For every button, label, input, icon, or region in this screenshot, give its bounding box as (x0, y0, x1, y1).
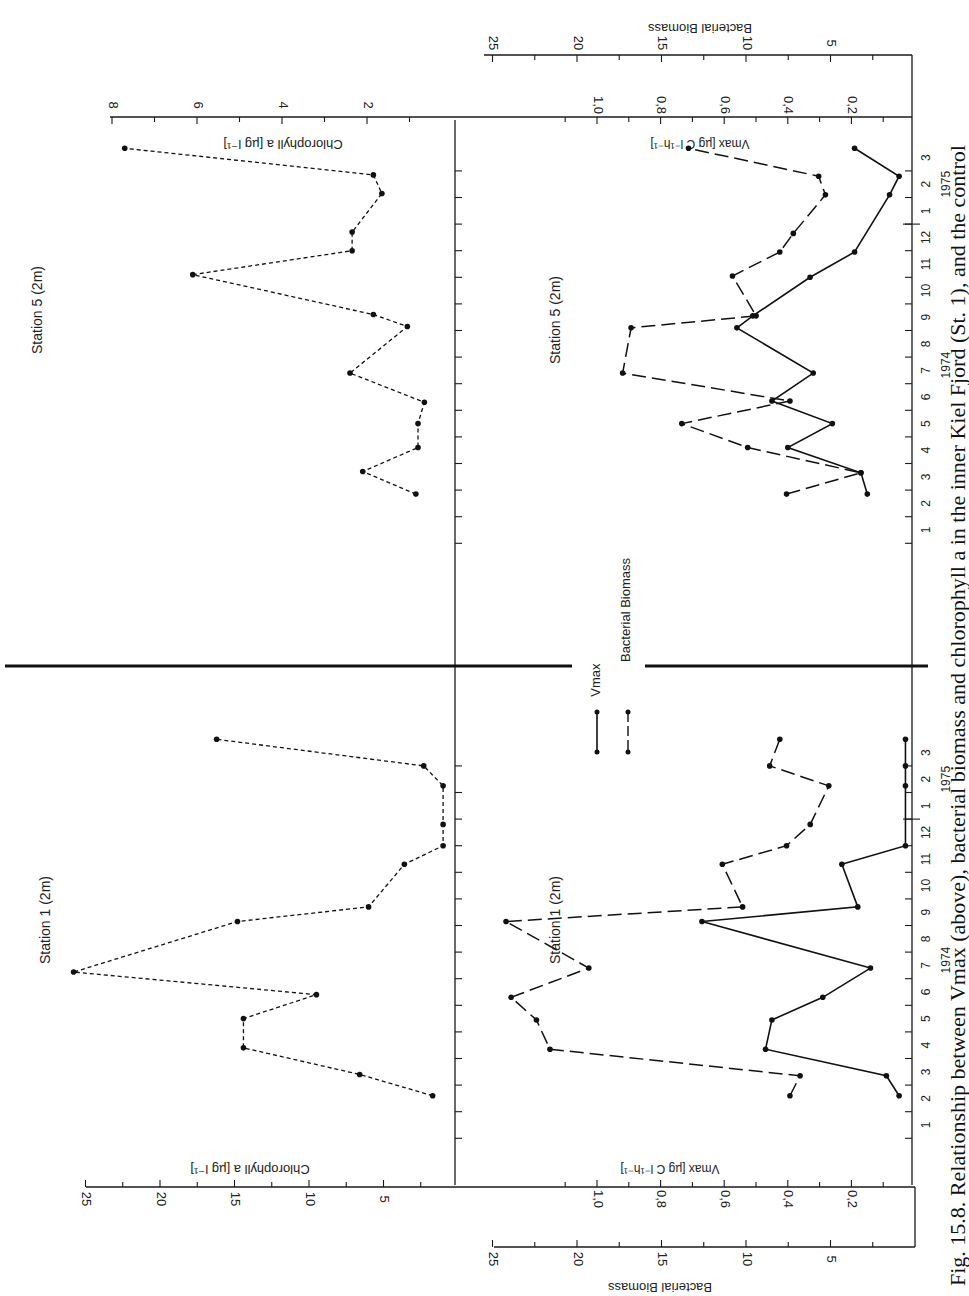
data-point (784, 491, 790, 497)
month-tick-label: 12 (919, 230, 933, 244)
data-point (534, 1017, 540, 1023)
month-tick-label: 10 (919, 284, 933, 298)
month-tick-label: 4 (919, 1042, 933, 1049)
value-tick-label: 10 (740, 36, 755, 50)
st5-biomass-line (623, 148, 861, 494)
data-point (440, 783, 446, 789)
value-tick-label: 25 (486, 1252, 501, 1266)
data-point (839, 862, 845, 868)
data-point (852, 145, 858, 151)
data-point (699, 919, 705, 925)
value-tick-label: 0,6 (718, 1190, 733, 1208)
panel-titles: Station 5 (2m)Station 5 (2m)Station 1 (2… (29, 266, 633, 964)
st5-chlorophyll-line (125, 148, 425, 494)
data-point (884, 1073, 890, 1079)
data-point (371, 312, 377, 318)
month-tick-label: 5 (919, 1015, 933, 1022)
data-point (777, 737, 783, 743)
axis-labels: 1234567891011121231974197512345678910111… (79, 21, 953, 1295)
data-point (745, 445, 751, 451)
value-tick-label: 10 (303, 1192, 318, 1206)
data-point (214, 737, 220, 743)
data-point (349, 248, 355, 254)
data-point (896, 173, 902, 179)
month-tick-label: 2 (919, 1095, 933, 1102)
st1-vmax-line (702, 739, 906, 1095)
value-tick-label: 20 (154, 1192, 169, 1206)
data-point (807, 822, 813, 828)
month-tick-label: 8 (919, 340, 933, 347)
value-tick-label: 5 (824, 1255, 839, 1262)
value-tick-label: 15 (228, 1192, 243, 1206)
figure-canvas: 1234567891011121231974197512345678910111… (0, 0, 969, 1296)
data-point (763, 1046, 769, 1052)
data-point (858, 470, 864, 476)
value-tick-label: 5 (824, 39, 839, 46)
figure-caption: Fig. 15.8. Relationship between Vmax (ab… (945, 145, 969, 1286)
data-point (769, 1017, 775, 1023)
data-point (896, 1093, 902, 1099)
value-tick-label: 0,4 (781, 96, 796, 114)
data-point (241, 1016, 247, 1022)
data-point (71, 969, 77, 975)
data-point (241, 1045, 247, 1051)
axes-frame (5, 55, 928, 1247)
data-point (379, 191, 385, 197)
data-point (405, 324, 411, 330)
month-tick-label: 2 (919, 500, 933, 507)
data-point (586, 965, 592, 971)
month-tick-label: 11 (919, 257, 933, 270)
month-tick-label: 1 (919, 1121, 933, 1128)
data-point (422, 400, 428, 406)
data-point (190, 272, 196, 278)
month-tick-label: 3 (919, 154, 933, 161)
data-point (440, 822, 446, 828)
month-tick-label: 11 (919, 852, 933, 865)
data-point (753, 313, 759, 319)
data-point (360, 469, 366, 475)
month-tick-label: 2 (919, 181, 933, 188)
data-point (503, 919, 509, 925)
data-point (402, 862, 408, 868)
value-tick-label: 25 (79, 1192, 94, 1206)
value-tick-label: 5 (377, 1195, 392, 1202)
month-tick-label: 12 (919, 825, 933, 839)
value-tick-label: 1,0 (591, 96, 606, 114)
legend-biomass-label: Bacterial Biomass (618, 557, 633, 662)
data-point (730, 273, 736, 279)
panel-title-st5-chl: Station 5 (2m) (29, 266, 45, 354)
data-point (235, 919, 241, 925)
data-point (797, 1073, 803, 1079)
data-point (421, 763, 427, 769)
data-point (547, 1046, 553, 1052)
month-tick-label: 3 (919, 473, 933, 480)
biomass-axis-title-st5: Bacterial Biomass (647, 21, 752, 36)
data-point (903, 843, 909, 849)
value-tick-label: 15 (655, 36, 670, 50)
month-tick-label: 4 (919, 447, 933, 454)
value-tick-label: 0,2 (845, 96, 860, 114)
data-point (903, 783, 909, 789)
data-point (122, 145, 128, 151)
data-point (415, 445, 421, 451)
month-tick-label: 1 (919, 802, 933, 809)
data-point (415, 421, 421, 427)
value-tick-label: 4 (276, 101, 291, 108)
data-point (855, 904, 861, 910)
value-tick-label: 10 (740, 1252, 755, 1266)
month-tick-label: 6 (919, 393, 933, 400)
month-tick-label: 3 (919, 749, 933, 756)
data-point (816, 173, 822, 179)
data-point (366, 904, 372, 910)
chl-axis-title-st1: Chlorophyll a [µg l⁻¹] (190, 1162, 309, 1177)
value-tick-label: 0,8 (654, 96, 669, 114)
data-point (807, 275, 813, 281)
data-point (852, 249, 858, 255)
data-point (740, 904, 746, 910)
data-point (820, 995, 826, 1001)
month-tick-label: 9 (919, 909, 933, 916)
data-point (865, 491, 871, 497)
data-point (440, 843, 446, 849)
data-point (628, 325, 634, 331)
data-point (791, 231, 797, 237)
